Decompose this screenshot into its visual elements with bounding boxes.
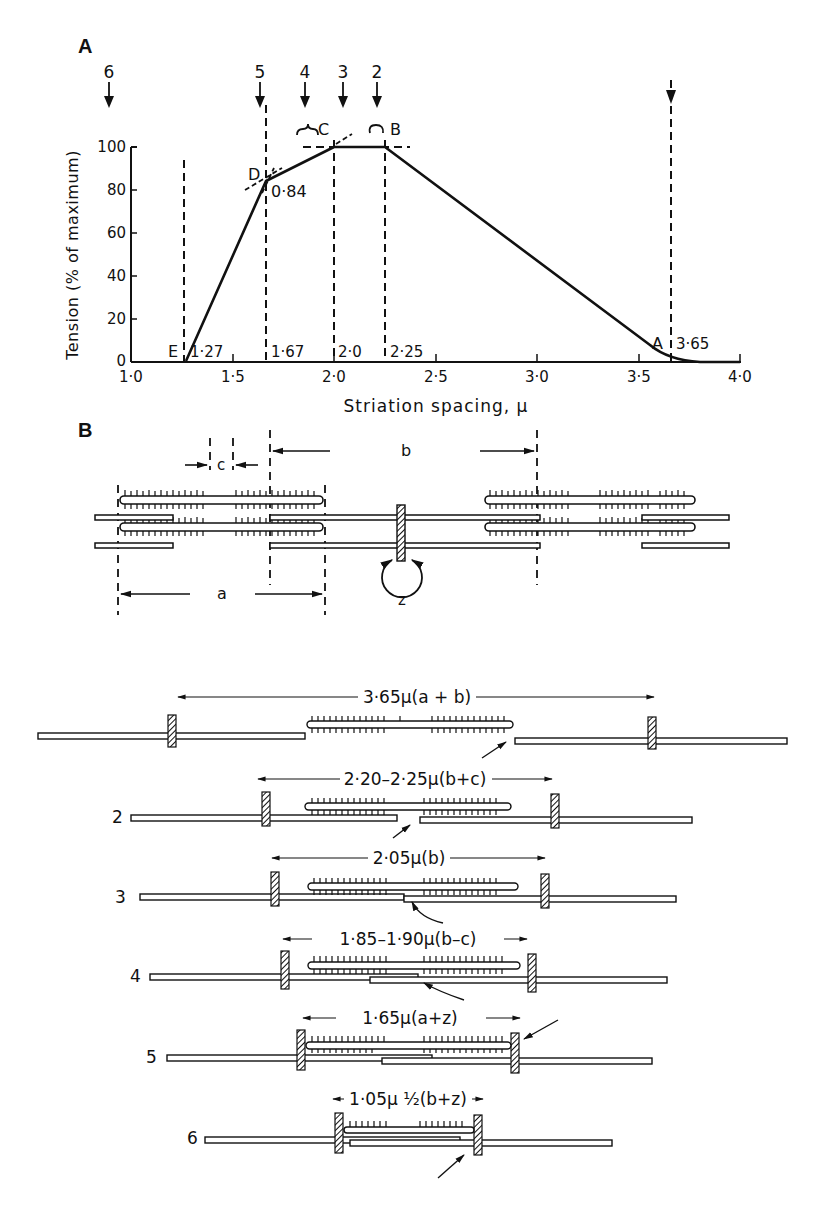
state-row-6: 6 1·05μ ½(b+z)	[187, 1084, 612, 1178]
figure-canvas: A 100 80 60 40 20 0 1·0 1	[0, 0, 827, 1226]
row-label: 5	[146, 1047, 157, 1067]
svg-text:1·27: 1·27	[190, 343, 223, 361]
dimension-label: 1·85–1·90μ(b–c)	[340, 929, 477, 949]
reference-lines	[184, 80, 671, 362]
svg-text:6: 6	[104, 62, 115, 82]
dimension-label: 1·05μ ½(b+z)	[349, 1089, 467, 1109]
svg-text:60: 60	[107, 224, 126, 242]
sarcomere-schematic: c b a	[95, 430, 729, 615]
state-row-3: 3 2·05μ(b)	[115, 847, 676, 923]
row-label: 3	[115, 887, 126, 907]
svg-text:D: D	[248, 165, 260, 184]
svg-text:3·65: 3·65	[676, 335, 709, 353]
state-arrows	[104, 82, 676, 108]
dimension-label: 1·65μ(a+z)	[362, 1008, 458, 1028]
y-axis-label: Tension (% of maximum)	[63, 150, 82, 361]
svg-text:3·5: 3·5	[627, 368, 651, 386]
row-label: 2	[112, 807, 123, 827]
vline-labels: 1·27 1·67 2·0 2·25 3·65	[190, 335, 709, 361]
dimension-label: 2·05μ(b)	[373, 848, 446, 868]
panel-b-label: B	[78, 419, 92, 441]
svg-text:E: E	[168, 342, 178, 361]
state-row-5: 5 1·65μ(a+z)	[146, 1007, 652, 1073]
svg-text:5: 5	[255, 62, 266, 82]
svg-text:2: 2	[372, 62, 383, 82]
svg-text:2·5: 2·5	[424, 368, 448, 386]
dim-a-label: a	[217, 584, 227, 603]
svg-text:2·0: 2·0	[338, 343, 362, 361]
dim-z-label: z	[398, 591, 406, 609]
tension-curve	[186, 147, 740, 362]
row-label: 4	[130, 966, 141, 986]
svg-text:100: 100	[97, 138, 126, 156]
chart-axes	[131, 147, 741, 362]
svg-text:20: 20	[107, 310, 126, 328]
svg-text:40: 40	[107, 267, 126, 285]
svg-text:C: C	[318, 120, 329, 139]
svg-text:1·67: 1·67	[271, 343, 304, 361]
svg-text:B: B	[390, 120, 401, 139]
y-tick-labels: 100 80 60 40 20 0	[97, 138, 126, 370]
state-row-2: 2 2·20–2·25μ(b+c)	[112, 768, 692, 838]
svg-text:0·84: 0·84	[271, 182, 307, 201]
row-label: 6	[187, 1128, 198, 1148]
svg-text:4: 4	[300, 62, 311, 82]
dimension-label: 2·20–2·25μ(b+c)	[344, 769, 487, 789]
dim-c-label: c	[217, 456, 225, 474]
point-labels: C B D 0·84 E A	[168, 120, 663, 361]
svg-text:1·0: 1·0	[119, 368, 143, 386]
svg-text:A: A	[652, 334, 663, 353]
svg-text:2·25: 2·25	[390, 343, 423, 361]
panel-a-label: A	[78, 35, 92, 57]
z-disc	[397, 505, 405, 561]
svg-text:1·5: 1·5	[221, 368, 245, 386]
svg-text:2·0: 2·0	[322, 368, 346, 386]
svg-text:4·0: 4·0	[728, 368, 752, 386]
state-row-1: 3·65μ(a + b)	[38, 686, 787, 758]
x-tick-labels: 1·0 1·5 2·0 2·5 3·0 3·5 4·0	[119, 368, 752, 386]
state-arrow-labels: 6 5 4 3 2	[104, 62, 383, 82]
x-axis-label: Striation spacing, μ	[344, 396, 529, 416]
dim-b-label: b	[401, 441, 411, 460]
svg-text:3·0: 3·0	[525, 368, 549, 386]
svg-text:80: 80	[107, 181, 126, 199]
dimension-label: 3·65μ(a + b)	[363, 687, 471, 707]
state-row-4: 4 1·85–1·90μ(b–c)	[130, 928, 667, 1000]
svg-text:3: 3	[338, 62, 349, 82]
